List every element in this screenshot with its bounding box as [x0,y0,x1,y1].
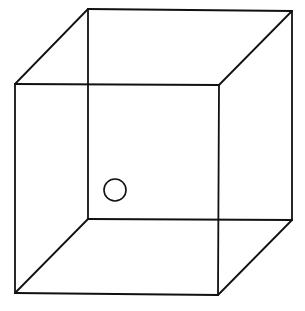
cube-drawing [0,0,305,311]
cube-edge-front-bottom-right-to-front-bottom-left [15,293,218,295]
cube-edge-back-top-left-to-back-top-right [88,9,292,11]
cube-edge-front-top-left-to-back-top-left [15,9,88,84]
cube-edge-front-top-right-to-back-top-right [219,11,292,85]
cube-edge-front-top-left-to-front-top-right [15,84,219,85]
necker-cube-diagram [0,0,305,311]
cube-edge-front-top-right-to-front-bottom-right [218,85,219,295]
cube-edge-front-bottom-right-to-back-bottom-right [218,220,292,295]
cube-edge-front-bottom-left-to-back-bottom-left [15,219,88,293]
cube-edge-back-bottom-right-to-back-bottom-left [88,219,292,220]
cube-edges [15,9,292,295]
circle-marker [104,179,126,201]
